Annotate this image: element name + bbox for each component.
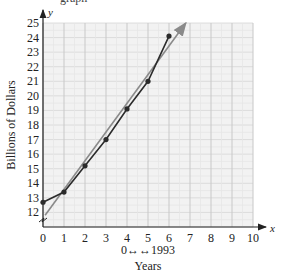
x-tick-label: 8 (208, 231, 214, 245)
data-point (145, 79, 150, 84)
y-tick-label: 14 (27, 176, 39, 190)
data-point (40, 200, 45, 205)
y-tick-label: 20 (27, 89, 39, 103)
x-axis-var: x (269, 222, 275, 234)
y-tick-label: 25 (27, 16, 39, 30)
x-axis-note: 0↔↔1993 (121, 243, 175, 257)
y-tick-label: 15 (27, 162, 39, 176)
y-tick-label: 23 (27, 45, 39, 59)
x-tick-label: 7 (187, 231, 193, 245)
data-point (103, 137, 108, 142)
y-axis-ticks: 1213141516171819202122232425 (27, 16, 39, 219)
data-point (166, 34, 171, 39)
x-tick-label: 1 (61, 231, 67, 245)
x-tick-label: 10 (247, 231, 259, 245)
y-tick-label: 16 (27, 147, 39, 161)
y-tick-label: 18 (27, 118, 39, 132)
x-axis-label: Years (135, 259, 162, 273)
x-tick-label: 3 (103, 231, 109, 245)
y-tick-label: 19 (27, 103, 39, 117)
x-tick-label: 0 (40, 231, 46, 245)
y-axis-label: Billions of Dollars (4, 80, 18, 170)
data-point (124, 106, 129, 111)
y-tick-label: 24 (27, 31, 39, 45)
x-tick-label: 9 (229, 231, 235, 245)
x-tick-label: 2 (82, 231, 88, 245)
y-tick-label: 13 (27, 191, 39, 205)
y-tick-label: 12 (27, 205, 39, 219)
y-tick-label: 21 (27, 74, 39, 88)
y-tick-label: 17 (27, 133, 39, 147)
y-axis-var: y (47, 6, 53, 18)
y-tick-label: 22 (27, 60, 39, 74)
chart: 1213141516171819202122232425 01234567891… (0, 0, 284, 276)
grid (43, 23, 253, 227)
data-point (82, 163, 87, 168)
data-point (61, 189, 66, 194)
